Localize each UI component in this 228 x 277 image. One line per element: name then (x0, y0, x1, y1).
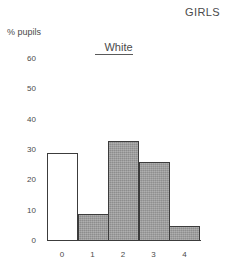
bar-category-0 (47, 153, 78, 241)
y-tick-label-10: 10 (10, 205, 36, 214)
bar-category-4 (169, 226, 200, 241)
y-tick-label-60: 60 (10, 54, 36, 63)
x-tick-label-3: 3 (139, 250, 169, 259)
y-tick-label-20: 20 (10, 175, 36, 184)
y-tick-label-40: 40 (10, 114, 36, 123)
x-tick-label-1: 1 (78, 250, 108, 259)
y-tick-label-50: 50 (10, 84, 36, 93)
bar-category-2 (108, 141, 139, 241)
x-tick-label-4: 4 (170, 250, 200, 259)
histogram-figure: GIRLS % pupils White 0 10 20 30 40 50 60… (0, 0, 228, 277)
y-tick-label-30: 30 (10, 145, 36, 154)
y-tick-label-0: 0 (10, 236, 36, 245)
plot-area: 0 10 20 30 40 50 60 0 1 2 3 4 (0, 0, 228, 277)
x-tick-label-0: 0 (47, 250, 77, 259)
bar-category-1 (78, 214, 109, 241)
x-axis-baseline (47, 240, 201, 241)
bar-category-3 (139, 162, 170, 241)
x-tick-label-2: 2 (108, 250, 138, 259)
